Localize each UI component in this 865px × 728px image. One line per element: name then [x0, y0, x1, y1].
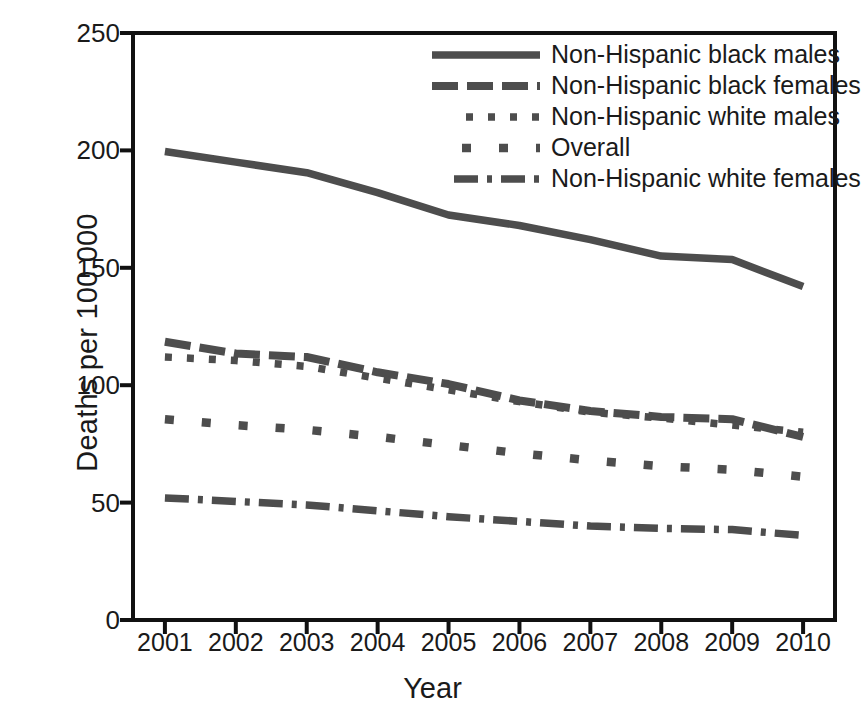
x-axis-title: Year [0, 672, 865, 705]
legend-item: Non-Hispanic white females [432, 164, 827, 193]
chart-figure: Deaths per 100,000 050100150200250 20012… [0, 0, 865, 728]
legend-item-label: Non-Hispanic black males [551, 42, 840, 67]
x-tick-label: 2010 [758, 630, 848, 655]
dotted-line-swatch [432, 104, 540, 130]
long-dash-line-swatch [432, 73, 540, 99]
legend-item: Overall [432, 133, 827, 162]
y-tick-label: 150 [36, 255, 120, 281]
y-axis-tick-labels: 050100150200250 [32, 0, 120, 728]
legend-item: Non-Hispanic white males [432, 102, 827, 131]
series-line-4 [165, 498, 803, 536]
data-series-group [165, 152, 803, 536]
legend-item: Non-Hispanic black males [432, 40, 827, 69]
series-line-1 [165, 342, 803, 437]
legend-item-label: Non-Hispanic black females [551, 73, 861, 98]
legend-item-label: Non-Hispanic white females [551, 166, 861, 191]
solid-line-swatch [432, 42, 540, 68]
legend-item: Non-Hispanic black females [432, 71, 827, 100]
square-dot-line-swatch [432, 135, 540, 161]
bottom-caption-fragment [6, 712, 506, 728]
x-axis-tick-labels: 2001200220032004200520062007200820092010 [0, 628, 865, 672]
y-tick-label: 100 [36, 372, 120, 398]
legend-item-label: Overall [551, 135, 630, 160]
legend-item-label: Non-Hispanic white males [551, 104, 840, 129]
dash-dot-line-swatch [432, 166, 540, 192]
y-tick-label: 250 [36, 20, 120, 46]
y-tick-label: 50 [36, 490, 120, 516]
series-line-3 [165, 419, 803, 477]
chart-legend: Non-Hispanic black malesNon-Hispanic bla… [432, 40, 827, 195]
y-tick-label: 200 [36, 137, 120, 163]
